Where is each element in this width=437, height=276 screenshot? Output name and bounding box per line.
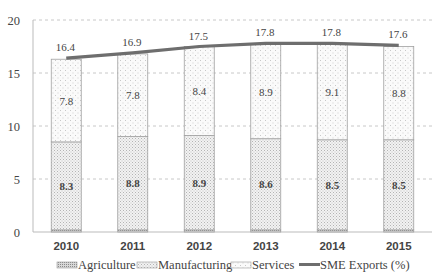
bar-value-label: 8.9 [192, 177, 206, 189]
x-axis: 201020112012201320142015 [53, 240, 412, 252]
line-value-label: 16.4 [56, 41, 76, 53]
line-swatch-icon [299, 263, 320, 266]
bar-stack-2012: 0.28.98.4 [184, 47, 214, 233]
legend-item-manufacturing: Manufacturing [137, 258, 233, 272]
legend-label-agriculture: Agriculture [78, 258, 136, 272]
legend-label-manufacturing: Manufacturing [158, 258, 233, 272]
legend: Agriculture Manufacturing Services SME E… [57, 258, 410, 272]
line-value-label: 16.9 [122, 36, 142, 48]
stacked-bar-line-chart: 05101520 0.28.37.80.28.87.80.28.98.40.28… [0, 0, 437, 276]
x-tick-label: 2012 [186, 240, 212, 252]
bar-stack-2011: 0.28.87.8 [118, 54, 148, 232]
bar-stack-2014: 0.28.59.1 [317, 43, 347, 232]
legend-item-agriculture: Agriculture [57, 258, 136, 272]
line-value-label: 17.6 [388, 28, 408, 40]
line-path [66, 43, 399, 58]
bar-series: 0.28.37.80.28.87.80.28.98.40.28.68.90.28… [51, 43, 414, 232]
x-tick-label: 2011 [120, 240, 146, 252]
bar-value-label: 8.8 [126, 177, 140, 189]
bar-value-label: 9.1 [325, 86, 339, 98]
line-value-label: 17.8 [255, 26, 275, 38]
y-tick-label: 10 [8, 120, 21, 134]
bar-value-label: 8.9 [259, 86, 273, 98]
bar-value-label: 8.8 [392, 87, 406, 99]
bar-value-label: 7.8 [126, 89, 140, 101]
line-value-label: 17.5 [189, 30, 209, 42]
manufacturing-swatch-icon [137, 262, 157, 268]
bar-value-label: 8.3 [59, 180, 73, 192]
y-tick-label: 0 [14, 226, 20, 240]
bar-value-label: 7.8 [59, 95, 73, 107]
y-tick-label: 5 [14, 173, 20, 187]
x-tick-label: 2010 [53, 240, 79, 252]
x-tick-label: 2013 [253, 240, 279, 252]
bar-stack-2013: 0.28.68.9 [251, 44, 281, 232]
x-tick-label: 2014 [319, 240, 345, 252]
legend-item-sme-exports: SME Exports (%) [299, 258, 410, 272]
bar-value-label: 8.5 [325, 179, 339, 191]
y-tick-label: 20 [8, 14, 21, 28]
sme-exports-line: 16.416.917.517.817.817.6 [56, 26, 408, 58]
x-tick-label: 2015 [386, 240, 412, 252]
chart-canvas: 05101520 0.28.37.80.28.87.80.28.98.40.28… [0, 0, 437, 276]
bar-value-label: 8.4 [192, 85, 206, 97]
legend-label-services: Services [252, 258, 294, 272]
bar-stack-2015: 0.28.58.8 [384, 47, 414, 233]
line-value-label: 17.8 [322, 26, 342, 38]
bar-value-label: 8.5 [392, 179, 406, 191]
y-tick-label: 15 [8, 67, 21, 81]
bar-value-label: 8.6 [259, 178, 273, 190]
legend-label-sme-exports: SME Exports (%) [320, 258, 410, 272]
bar-stack-2010: 0.28.37.8 [51, 59, 81, 232]
legend-item-services: Services [231, 258, 294, 272]
services-swatch-icon [231, 262, 251, 268]
agriculture-swatch-icon [57, 262, 77, 268]
